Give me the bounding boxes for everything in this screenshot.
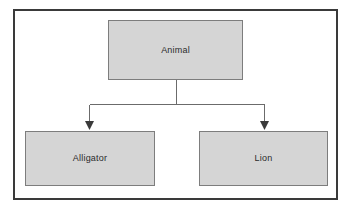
diagram-canvas: Animal Alligator Lion bbox=[0, 0, 352, 213]
node-alligator[interactable]: Alligator bbox=[25, 131, 155, 186]
node-animal[interactable]: Animal bbox=[108, 20, 243, 80]
node-animal-label: Animal bbox=[161, 46, 190, 55]
node-lion[interactable]: Lion bbox=[199, 131, 328, 186]
node-lion-label: Lion bbox=[255, 154, 273, 163]
node-alligator-label: Alligator bbox=[73, 154, 107, 163]
